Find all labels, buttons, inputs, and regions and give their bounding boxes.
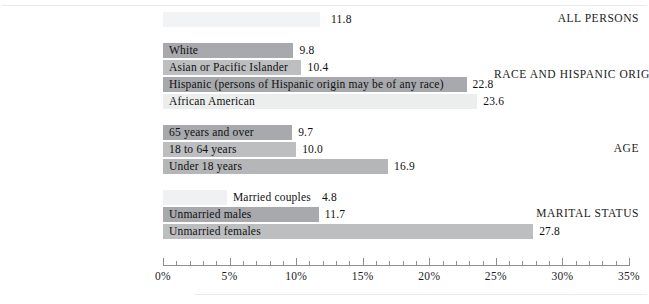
x-axis-minor-tick [403,261,404,265]
x-axis-minor-tick [536,261,537,265]
bar[interactable] [163,190,227,205]
bar[interactable] [163,12,320,27]
bar-label: 18 to 64 years [169,142,237,157]
x-axis-minor-tick [243,261,244,265]
bar-value-label: 9.8 [299,43,314,58]
bar-row[interactable]: Married couples4.8 [163,190,629,205]
bar-value-label: 11.7 [325,207,346,222]
x-axis-minor-tick [549,261,550,265]
bar-row[interactable]: Unmarried females27.8 [163,224,629,239]
x-axis-major-tick [429,258,430,266]
x-axis-major-tick [163,258,164,266]
x-axis-minor-tick [456,261,457,265]
bar-label: African American [169,94,255,109]
bar-label: Unmarried females [169,224,261,239]
bar-label: Under 18 years [169,159,242,174]
bar-value-label: 16.9 [394,159,415,174]
bar-row[interactable]: Asian or Pacific Islander10.4 [163,60,629,75]
bar-value-label: 22.8 [473,77,494,92]
bar-label: Asian or Pacific Islander [169,60,288,75]
bar-value-label: 27.8 [539,224,560,239]
bar-value-label: 9.7 [298,125,313,140]
bar-row[interactable]: 11.8 [163,12,629,27]
x-axis-major-tick [496,258,497,266]
x-axis-tick-label: 25% [485,270,507,282]
bar-value-label: 11.8 [331,12,352,27]
bar-value-label: 4.8 [322,190,337,205]
x-axis-minor-tick [469,261,470,265]
x-axis-minor-tick [270,261,271,265]
x-axis-minor-tick [616,261,617,265]
chart-container: ALL PERSONSRACE AND HISPANIC ORIGINAGEMA… [0,0,649,304]
x-axis-major-tick [230,258,231,266]
bar-row[interactable]: Unmarried males11.7 [163,207,629,222]
x-axis-major-tick [629,258,630,266]
bar-value-label: 10.0 [302,142,323,157]
x-axis-minor-tick [376,261,377,265]
x-axis-minor-tick [389,261,390,265]
x-axis-major-tick [562,258,563,266]
x-axis-minor-tick [576,261,577,265]
x-axis-tick-label: 20% [418,270,440,282]
x-axis-major-tick [363,258,364,266]
bar-label: Married couples [233,190,311,205]
x-axis-minor-tick [176,261,177,265]
x-axis-minor-tick [203,261,204,265]
x-axis-minor-tick [602,261,603,265]
bar-label: Hispanic (persons of Hispanic origin may… [169,77,444,92]
x-axis-minor-tick [349,261,350,265]
bar-label: White [169,43,198,58]
bar-row[interactable]: 65 years and over9.7 [163,125,629,140]
x-axis-minor-tick [256,261,257,265]
x-axis: 0%5%10%15%20%25%30%35% [163,258,629,298]
bar-value-label: 10.4 [307,60,328,75]
bar-row[interactable]: 18 to 64 years10.0 [163,142,629,157]
x-axis-tick-label: 5% [222,270,238,282]
x-axis-tick-label: 30% [551,270,573,282]
x-axis-tick-label: 15% [352,270,374,282]
x-axis-tick-label: 0% [155,270,171,282]
x-axis-minor-tick [522,261,523,265]
x-axis-line [163,265,629,266]
x-axis-minor-tick [483,261,484,265]
bar-value-label: 23.6 [483,94,504,109]
x-axis-minor-tick [190,261,191,265]
bar-row[interactable]: African American23.6 [163,94,629,109]
x-axis-minor-tick [323,261,324,265]
bar-label: 65 years and over [169,125,254,140]
x-axis-minor-tick [416,261,417,265]
bar-row[interactable]: Under 18 years16.9 [163,159,629,174]
bar-row[interactable]: Hispanic (persons of Hispanic origin may… [163,77,629,92]
x-axis-minor-tick [309,261,310,265]
bar-row[interactable]: White9.8 [163,43,629,58]
bar-label: Unmarried males [169,207,252,222]
x-axis-minor-tick [283,261,284,265]
x-axis-major-tick [296,258,297,266]
x-axis-minor-tick [509,261,510,265]
x-axis-minor-tick [216,261,217,265]
x-axis-tick-label: 35% [618,270,640,282]
x-axis-minor-tick [443,261,444,265]
x-axis-minor-tick [336,261,337,265]
x-axis-minor-tick [589,261,590,265]
bottom-rule-divider [195,294,647,295]
x-axis-tick-label: 10% [285,270,307,282]
